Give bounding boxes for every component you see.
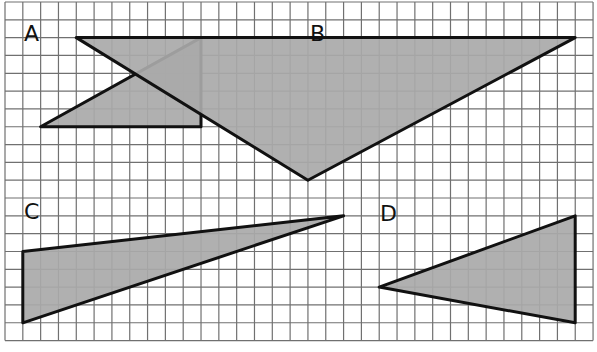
triangle-label-b: B (310, 21, 325, 46)
triangle-label-a: A (24, 21, 39, 46)
triangle-label-c: C (24, 199, 39, 224)
triangle-label-d: D (380, 201, 397, 226)
triangle-grid-diagram: A B C D (0, 0, 597, 352)
